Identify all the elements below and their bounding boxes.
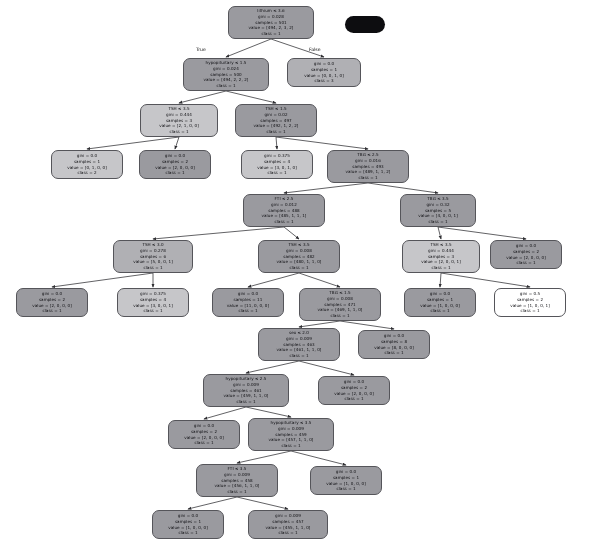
tree-node: TSH ≤ 3.5gini = 0.008samples = 482value … [258, 240, 340, 273]
tree-node: gini = 0.0samples = 8value = [8, 0, 0, 0… [358, 330, 430, 359]
tree-node-line: class = 1 [260, 353, 338, 359]
tree-node: lithium ≤ 3.6gini = 0.028samples = 501va… [228, 6, 314, 39]
tree-node-line: class = 1 [312, 486, 380, 492]
tree-node-line: class = 1 [237, 129, 315, 135]
tree-node: FTI ≤ 2.5gini = 0.012samples = 488value … [243, 194, 325, 227]
tree-node-line: class = 1 [402, 219, 474, 225]
tree-node-line: class = 1 [406, 308, 474, 314]
tree-node-line: class = 1 [18, 308, 86, 314]
tree-edge [438, 227, 441, 239]
tree-node: TBG ≤ 2.5gini = 0.016samples = 493value … [327, 150, 409, 183]
tree-edge [246, 361, 299, 373]
tree-edge [153, 227, 284, 239]
tree-edge [179, 91, 226, 103]
tree-node-line: class = 2 [53, 170, 121, 176]
edge-label: False [309, 47, 321, 52]
tree-node-line: class = 1 [170, 440, 238, 446]
tree-node: TSH ≤ 1.5gini = 0.02samples = 497value =… [235, 104, 317, 137]
tree-node-line: class = 1 [205, 399, 287, 405]
tree-node-line: class = 1 [230, 31, 312, 37]
tree-node-line: class = 1 [492, 260, 560, 266]
edge-label: True [196, 47, 206, 52]
tree-node: gini = 0.375samples = 4value = [3, 0, 1,… [241, 150, 313, 179]
tree-node: gini = 0.0samples = 1value = [0, 0, 1, 0… [287, 58, 361, 87]
tree-edge [175, 137, 179, 149]
tree-node-line: class = 1 [115, 265, 191, 271]
tree-edge [438, 227, 526, 239]
tree-node: gini = 0.5samples = 2value = [1, 0, 0, 1… [494, 288, 566, 317]
tree-node: TSH ≤ 3.5gini = 0.444samples = 3value = … [140, 104, 218, 137]
tree-node: gini = 0.0samples = 1value = [1, 0, 0, 0… [310, 466, 382, 495]
tree-node: gini = 0.375samples = 4value = [3, 0, 0,… [117, 288, 189, 317]
tree-node-line: class = 1 [250, 530, 326, 536]
tree-node: gini = 0.0samples = 2value = [2, 0, 0, 0… [16, 288, 88, 317]
tree-edge [299, 321, 340, 327]
tree-edge [340, 321, 394, 329]
tree-node: gini = 0.0samples = 2value = [2, 0, 0, 0… [318, 376, 390, 405]
tree-node-line: class = 1 [301, 313, 379, 319]
tree-node: TBG ≤ 1.5gini = 0.008samples = 471value … [299, 288, 381, 321]
tree-edge [226, 91, 276, 103]
tree-node-line: class = 1 [154, 530, 222, 536]
tree-edge [368, 183, 438, 193]
tree-node-line: class = 1 [320, 396, 388, 402]
tree-node: gini = 0.0samples = 2value = [2, 0, 0, 0… [490, 240, 562, 269]
tree-node: gini = 0.009samples = 457value = [455, 1… [248, 510, 328, 539]
tree-node-line: class = 1 [329, 175, 407, 181]
tree-edge [188, 497, 237, 509]
tree-node: hypopituitary ≤ 1.5gini = 0.024samples =… [183, 58, 269, 91]
tree-edge [284, 227, 299, 239]
tree-edge [299, 361, 354, 375]
tree-node: gini = 0.0samples = 1value = [1, 0, 0, 0… [152, 510, 224, 539]
tree-edge [284, 183, 368, 193]
tree-node: TBG ≤ 3.5gini = 0.32samples = 5value = [… [400, 194, 476, 227]
tree-node: gini = 0.0samples = 1value = [0, 1, 0, 0… [51, 150, 123, 179]
tree-node-line: class = 1 [250, 443, 332, 449]
tree-node-line: class = 1 [198, 489, 276, 495]
tree-edge [226, 39, 271, 57]
tree-edge [246, 407, 291, 417]
tree-node: gini = 0.0samples = 2value = [2, 0, 0, 0… [168, 420, 240, 449]
tree-node-line: class = 1 [404, 265, 478, 271]
redaction-blob [345, 16, 385, 33]
tree-node-line: class = 1 [245, 219, 323, 225]
tree-node-line: class = 1 [496, 308, 564, 314]
tree-edge [237, 497, 288, 509]
tree-node: gini = 0.0samples = 1value = [1, 0, 0, 0… [404, 288, 476, 317]
tree-node: hypopituitary ≤ 2.5gini = 0.009samples =… [203, 374, 289, 407]
tree-node-line: class = 1 [119, 308, 187, 314]
tree-node-line: class = 1 [141, 170, 209, 176]
tree-node-line: class = 1 [142, 129, 216, 135]
tree-node: FTI ≤ 3.5gini = 0.009samples = 458value … [196, 464, 278, 497]
tree-edge [248, 273, 299, 287]
tree-edge [237, 451, 291, 463]
tree-node-line: class = 1 [260, 265, 338, 271]
tree-edge [276, 137, 277, 149]
tree-edge [204, 407, 246, 419]
tree-edge [87, 137, 179, 149]
tree-node-line: class = 1 [214, 308, 282, 314]
tree-node: gini = 0.0samples = 2value = [2, 0, 0, 0… [139, 150, 211, 179]
tree-edge [276, 137, 368, 149]
tree-node: TSH ≤ 3.0gini = 0.278samples = 6value = … [113, 240, 193, 273]
tree-node-line: class = 1 [360, 350, 428, 356]
tree-node: gini = 0.0samples = 11value = [11, 0, 0,… [212, 288, 284, 317]
tree-edge [440, 273, 441, 287]
tree-edge [299, 273, 340, 287]
tree-node-line: class = 1 [185, 83, 267, 89]
tree-edge [291, 451, 346, 465]
tree-node: sex ≤ 2.0gini = 0.009samples = 463value … [258, 328, 340, 361]
tree-node-line: class = 1 [243, 170, 311, 176]
tree-node-line: class = 3 [289, 78, 359, 84]
tree-node: hypopituitary ≤ 3.5gini = 0.009samples =… [248, 418, 334, 451]
tree-node: TSH ≤ 3.5gini = 0.444samples = 3value = … [402, 240, 480, 273]
tree-edge [52, 273, 153, 287]
tree-edge [441, 273, 530, 287]
